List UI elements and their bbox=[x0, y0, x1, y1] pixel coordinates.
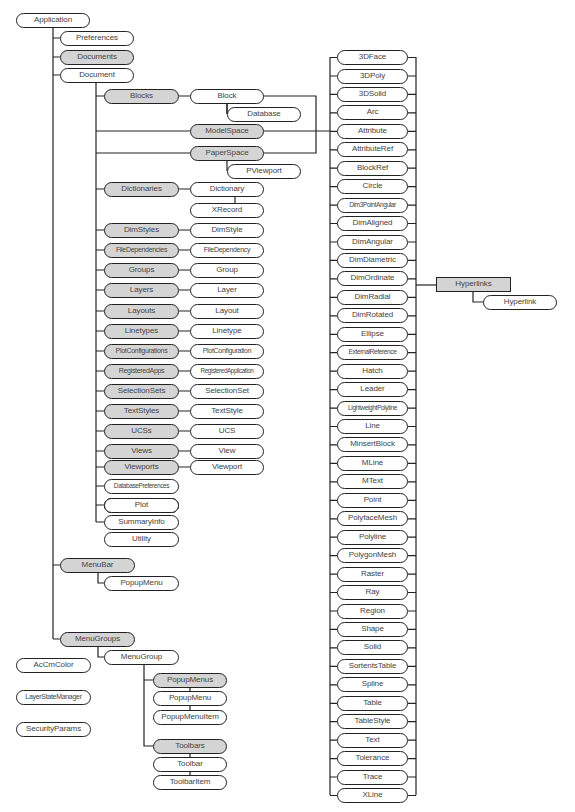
node-menugroups[interactable]: MenuGroups bbox=[60, 632, 135, 647]
node-entity-dimradial[interactable]: DimRadial bbox=[337, 290, 408, 305]
node-entity-xline[interactable]: XLine bbox=[337, 788, 408, 803]
node-linetypes[interactable]: Linetypes bbox=[104, 324, 179, 339]
node-plotconfigurations[interactable]: PlotConfigurations bbox=[104, 344, 179, 359]
node-entity-leader[interactable]: Leader bbox=[337, 382, 408, 397]
node-popupmenuitem[interactable]: PopupMenuItem bbox=[153, 710, 227, 725]
node-entity-text[interactable]: Text bbox=[337, 733, 408, 748]
node-linetype[interactable]: Linetype bbox=[190, 324, 264, 339]
node-databasepreferences[interactable]: DatabasePreferences bbox=[104, 479, 179, 494]
node-securityparams[interactable]: SecurityParams bbox=[16, 722, 91, 737]
node-block[interactable]: Block bbox=[190, 89, 264, 104]
node-documents[interactable]: Documents bbox=[60, 50, 134, 65]
node-entity-dimordinate[interactable]: DimOrdinate bbox=[337, 271, 408, 286]
node-entity-trace[interactable]: Trace bbox=[337, 770, 408, 785]
node-entity-attribute[interactable]: Attribute bbox=[337, 124, 408, 139]
node-entity-dimangular[interactable]: DimAngular bbox=[337, 235, 408, 250]
node-entity-tolerance[interactable]: Tolerance bbox=[337, 751, 408, 766]
node-entity-minsertblock[interactable]: MinsertBlock bbox=[337, 437, 408, 452]
node-entity-mline[interactable]: MLine bbox=[337, 456, 408, 471]
node-plot-label: Plot bbox=[104, 498, 179, 513]
node-layer[interactable]: Layer bbox=[190, 283, 264, 298]
node-entity-dim3pointangular[interactable]: Dim3PointAngular bbox=[337, 198, 408, 213]
node-entity-blockref[interactable]: BlockRef bbox=[337, 161, 408, 176]
node-blocks[interactable]: Blocks bbox=[104, 89, 179, 104]
node-entity-table[interactable]: Table bbox=[337, 696, 408, 711]
node-entity-line[interactable]: Line bbox=[337, 419, 408, 434]
node-entity-polyfacemesh[interactable]: PolyfaceMesh bbox=[337, 511, 408, 526]
node-menugroup[interactable]: MenuGroup bbox=[104, 650, 179, 665]
node-toolbar[interactable]: Toolbar bbox=[153, 757, 227, 772]
node-entity-spline[interactable]: Spline bbox=[337, 677, 408, 692]
node-utility[interactable]: Utility bbox=[104, 532, 179, 547]
node-ucss[interactable]: UCSs bbox=[104, 424, 179, 439]
node-hyperlink[interactable]: Hyperlink bbox=[483, 295, 557, 310]
node-entity-sortentstable[interactable]: SortentsTable bbox=[337, 659, 408, 674]
node-dimstyle[interactable]: DimStyle bbox=[190, 223, 264, 238]
node-registeredapps[interactable]: RegisteredApps bbox=[104, 364, 179, 379]
node-layerstatemanager[interactable]: LayerStateManager bbox=[16, 690, 91, 705]
node-textstyle[interactable]: TextStyle bbox=[190, 404, 264, 419]
node-preferences[interactable]: Preferences bbox=[60, 31, 134, 46]
node-selectionset[interactable]: SelectionSet bbox=[190, 384, 264, 399]
node-viewport[interactable]: Viewport bbox=[190, 460, 264, 475]
node-entity-mtext[interactable]: MText bbox=[337, 474, 408, 489]
node-view[interactable]: View bbox=[190, 444, 264, 459]
node-entity-shape[interactable]: Shape bbox=[337, 622, 408, 637]
node-registeredapplication[interactable]: RegisteredApplication bbox=[190, 364, 264, 379]
node-entity-hatch[interactable]: Hatch bbox=[337, 364, 408, 379]
node-layers[interactable]: Layers bbox=[104, 283, 179, 298]
node-groups[interactable]: Groups bbox=[104, 263, 179, 278]
node-entity-polyline[interactable]: Polyline bbox=[337, 530, 408, 545]
node-entity-attributeref[interactable]: AttributeRef bbox=[337, 142, 408, 157]
node-toolbaritem[interactable]: ToolbarItem bbox=[153, 775, 227, 790]
node-layouts[interactable]: Layouts bbox=[104, 304, 179, 319]
node-entity-polygonmesh[interactable]: PolygonMesh bbox=[337, 548, 408, 563]
node-modelspace[interactable]: ModelSpace bbox=[190, 124, 264, 139]
node-dictionary[interactable]: Dictionary bbox=[190, 182, 264, 197]
node-entity-dimaligned[interactable]: DimAligned bbox=[337, 216, 408, 231]
node-paperspace[interactable]: PaperSpace bbox=[190, 146, 264, 161]
node-dimstyles[interactable]: DimStyles bbox=[104, 223, 179, 238]
node-selectionsets[interactable]: SelectionSets bbox=[104, 384, 179, 399]
node-entity-3dsolid[interactable]: 3DSolid bbox=[337, 87, 408, 102]
node-entity-ellipse[interactable]: Ellipse bbox=[337, 327, 408, 342]
node-entity-region[interactable]: Region bbox=[337, 604, 408, 619]
node-popupmenu[interactable]: PopupMenu bbox=[153, 691, 227, 706]
node-summaryinfo[interactable]: SummaryInfo bbox=[104, 515, 179, 530]
node-pviewport[interactable]: PViewport bbox=[227, 164, 301, 179]
node-xrecord[interactable]: XRecord bbox=[190, 203, 264, 218]
node-entity-raster[interactable]: Raster bbox=[337, 567, 408, 582]
node-entity-ray[interactable]: Ray bbox=[337, 585, 408, 600]
node-entity-solid[interactable]: Solid bbox=[337, 640, 408, 655]
node-layout[interactable]: Layout bbox=[190, 304, 264, 319]
node-entity-3dpoly[interactable]: 3DPoly bbox=[337, 69, 408, 84]
node-database[interactable]: Database bbox=[227, 107, 301, 122]
node-entity-dimrotated[interactable]: DimRotated bbox=[337, 308, 408, 323]
node-entity-dimdiametric[interactable]: DimDiametric bbox=[337, 253, 408, 268]
node-views[interactable]: Views bbox=[104, 444, 179, 459]
node-entity-externalreference[interactable]: ExternalReference bbox=[337, 345, 408, 360]
node-entity-3dface[interactable]: 3DFace bbox=[337, 50, 408, 65]
node-entity-lightweightpolyline[interactable]: LightweightPolyline bbox=[337, 401, 408, 416]
node-plotconfiguration[interactable]: PlotConfiguration bbox=[190, 344, 264, 359]
node-filedependency[interactable]: FileDependency bbox=[190, 243, 264, 258]
node-group[interactable]: Group bbox=[190, 263, 264, 278]
node-textstyles[interactable]: TextStyles bbox=[104, 404, 179, 419]
node-document[interactable]: Document bbox=[60, 68, 134, 83]
node-menubar-popupmenu[interactable]: PopupMenu bbox=[104, 576, 179, 591]
node-viewports[interactable]: Viewports bbox=[104, 460, 179, 475]
node-accmcolor[interactable]: AcCmColor bbox=[16, 658, 91, 673]
node-entity-circle[interactable]: Circle bbox=[337, 179, 408, 194]
node-application[interactable]: Application bbox=[16, 13, 90, 28]
node-toolbars[interactable]: Toolbars bbox=[153, 739, 227, 754]
node-hyperlinks[interactable]: Hyperlinks bbox=[436, 277, 511, 292]
node-entity-arc[interactable]: Arc bbox=[337, 105, 408, 120]
node-entity-point[interactable]: Point bbox=[337, 493, 408, 508]
node-ucs[interactable]: UCS bbox=[190, 424, 264, 439]
node-entity-tablestyle[interactable]: TableStyle bbox=[337, 714, 408, 729]
node-popupmenus[interactable]: PopupMenus bbox=[153, 673, 227, 688]
node-dictionaries[interactable]: Dictionaries bbox=[104, 182, 179, 197]
node-filedependencies[interactable]: FileDependencies bbox=[104, 243, 179, 258]
node-menubar[interactable]: MenuBar bbox=[60, 558, 135, 573]
